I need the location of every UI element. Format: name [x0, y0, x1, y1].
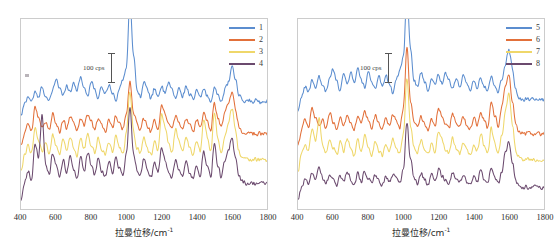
- right-plot-frame: 100 cps 5678: [297, 18, 545, 210]
- x-tick-label: 1000: [118, 212, 135, 222]
- left-scalebar: 100 cps: [83, 53, 115, 83]
- legend-item[interactable]: 5: [506, 22, 540, 33]
- legend-item[interactable]: 2: [229, 34, 263, 45]
- legend-item[interactable]: 6: [506, 34, 540, 45]
- spectrum-line-4: [21, 108, 267, 201]
- right-panel: 100 cps 5678 400600800100012001400160018…: [277, 0, 554, 249]
- legend-color-swatch: [506, 27, 532, 29]
- x-tick-label: 600: [49, 212, 62, 222]
- scalebar-bracket-icon: [385, 53, 392, 83]
- x-tick-label: 400: [14, 212, 27, 222]
- left-x-axis-title-exponent: -1: [167, 226, 173, 233]
- spectrum-line-8: [298, 124, 544, 199]
- stray-mark-artifact: [25, 74, 29, 77]
- x-tick-label: 1800: [260, 212, 277, 222]
- x-tick-label: 1200: [430, 212, 447, 222]
- right-legend: 5678: [506, 22, 540, 69]
- legend-item-label: 2: [259, 35, 263, 44]
- legend-color-swatch: [506, 51, 532, 53]
- x-tick-label: 600: [326, 212, 339, 222]
- left-plot-frame: 100 cps 1234: [20, 18, 268, 210]
- x-tick-label: 1800: [537, 212, 554, 222]
- x-tick-label: 1600: [224, 212, 241, 222]
- left-x-axis-title: 拉曼位移/cm-1: [20, 226, 268, 239]
- left-x-axis: 40060080010001200140016001800: [20, 210, 268, 226]
- legend-item[interactable]: 8: [506, 58, 540, 69]
- right-x-axis-title-exponent: -1: [444, 226, 450, 233]
- raman-spectra-figure: 100 cps 1234 400600800100012001400160018…: [0, 0, 554, 249]
- x-tick-label: 1200: [153, 212, 170, 222]
- x-tick-label: 1000: [395, 212, 412, 222]
- legend-item-label: 1: [259, 23, 263, 32]
- legend-item[interactable]: 1: [229, 22, 263, 33]
- left-x-axis-title-text: 拉曼位移/cm: [115, 228, 168, 238]
- legend-item[interactable]: 4: [229, 58, 263, 69]
- legend-color-swatch: [229, 63, 255, 65]
- right-x-axis-title-text: 拉曼位移/cm: [392, 228, 445, 238]
- legend-item-label: 7: [536, 47, 540, 56]
- right-scalebar: 100 cps: [360, 53, 392, 83]
- x-tick-label: 400: [291, 212, 304, 222]
- right-x-axis-title: 拉曼位移/cm-1: [297, 226, 545, 239]
- legend-item-label: 8: [536, 59, 540, 68]
- x-tick-label: 1600: [501, 212, 518, 222]
- x-tick-label: 1400: [466, 212, 483, 222]
- right-scalebar-label: 100 cps: [360, 64, 382, 72]
- legend-item-label: 3: [259, 47, 263, 56]
- left-legend: 1234: [229, 22, 263, 69]
- right-x-axis: 40060080010001200140016001800: [297, 210, 545, 226]
- x-tick-label: 1400: [189, 212, 206, 222]
- legend-item-label: 5: [536, 23, 540, 32]
- legend-item[interactable]: 3: [229, 46, 263, 57]
- scalebar-bracket-icon: [108, 53, 115, 83]
- legend-item[interactable]: 7: [506, 46, 540, 57]
- x-tick-label: 800: [361, 212, 374, 222]
- left-scalebar-label: 100 cps: [83, 64, 105, 72]
- x-tick-label: 800: [84, 212, 97, 222]
- legend-color-swatch: [229, 51, 255, 53]
- left-panel: 100 cps 1234 400600800100012001400160018…: [0, 0, 277, 249]
- legend-color-swatch: [506, 63, 532, 65]
- legend-color-swatch: [229, 27, 255, 29]
- legend-color-swatch: [506, 39, 532, 41]
- legend-color-swatch: [229, 39, 255, 41]
- legend-item-label: 4: [259, 59, 263, 68]
- legend-item-label: 6: [536, 35, 540, 44]
